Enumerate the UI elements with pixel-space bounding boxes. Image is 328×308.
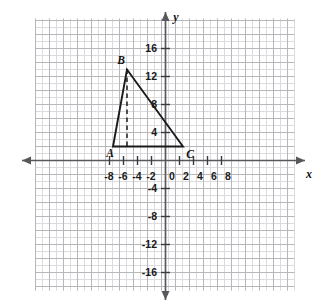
y-tick-label-16: 16 — [145, 42, 157, 54]
y-axis-arrow-up — [162, 12, 170, 21]
y-tick-label--16: -16 — [142, 266, 157, 278]
x-tick-label-8: 8 — [225, 170, 231, 182]
x-tick-label--8: -8 — [104, 170, 113, 182]
graph-canvas: -8 -6 -4 -2 0 2 4 6 8 16 12 8 4 -4 -8 -1… — [0, 0, 328, 308]
y-tick-label--8: -8 — [148, 210, 157, 222]
y-axis-label: y — [171, 10, 179, 24]
y-tick-label-4: 4 — [151, 126, 157, 138]
x-tick-label-0: 0 — [169, 170, 175, 182]
y-tick-label--4: -4 — [148, 182, 157, 194]
x-tick-label--4: -4 — [132, 170, 141, 182]
vertex-label-c: C — [186, 148, 194, 160]
x-axis-arrow-left — [22, 157, 31, 165]
vertex-label-a: A — [105, 147, 114, 159]
x-tick-label-2: 2 — [183, 170, 189, 182]
x-tick-label--6: -6 — [118, 170, 127, 182]
y-tick-label-12: 12 — [145, 70, 157, 82]
x-axis-label: x — [305, 167, 312, 181]
x-tick-label-4: 4 — [197, 170, 203, 182]
x-axis-tick-labels: -8 -6 -4 -2 0 2 4 6 8 — [104, 170, 231, 182]
x-tick-label--2: -2 — [146, 170, 155, 182]
vertex-label-b: B — [116, 54, 125, 66]
x-axis-arrow-right — [296, 157, 305, 165]
y-axis-arrow-down — [162, 291, 170, 300]
coordinate-plane-figure: -8 -6 -4 -2 0 2 4 6 8 16 12 8 4 -4 -8 -1… — [0, 0, 328, 308]
x-tick-label-6: 6 — [211, 170, 217, 182]
y-tick-label--12: -12 — [142, 238, 157, 250]
